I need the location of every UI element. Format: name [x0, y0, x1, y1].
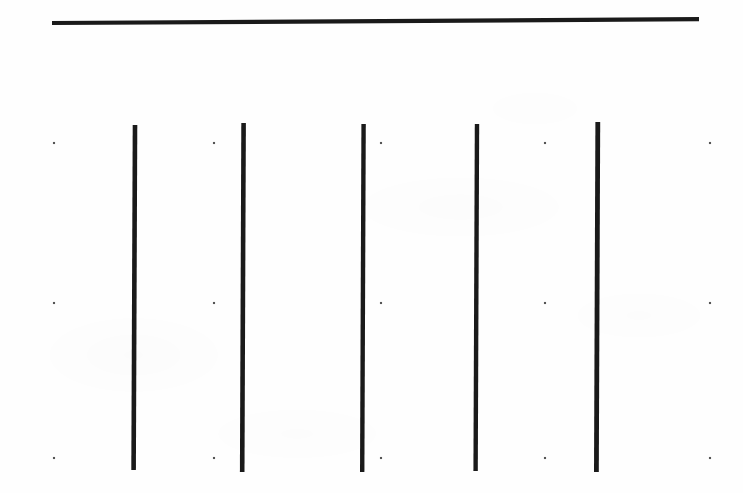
vertical-stroke-4: [476, 124, 477, 471]
registration-dot: [213, 142, 215, 144]
registration-dot: [544, 457, 546, 459]
registration-dot: [53, 302, 55, 304]
registration-dot: [213, 302, 215, 304]
line-figure-svg: [0, 0, 743, 493]
vertical-stroke-1: [134, 125, 135, 470]
registration-dot: [380, 142, 382, 144]
registration-dot: [709, 142, 711, 144]
vertical-stroke-2: [242, 123, 243, 472]
registration-dot: [213, 457, 215, 459]
vertical-stroke-5: [596, 122, 597, 472]
horizontal-rule: [52, 19, 699, 23]
registration-dot: [380, 457, 382, 459]
registration-dot: [709, 457, 711, 459]
figure-canvas: [0, 0, 743, 493]
vertical-stroke-3: [362, 124, 363, 472]
registration-dot: [380, 302, 382, 304]
registration-dot: [544, 142, 546, 144]
registration-dot: [53, 457, 55, 459]
registration-dot-layer: [53, 142, 711, 459]
registration-dot: [709, 302, 711, 304]
registration-dot: [53, 142, 55, 144]
stroke-layer: [52, 19, 699, 472]
registration-dot: [544, 302, 546, 304]
